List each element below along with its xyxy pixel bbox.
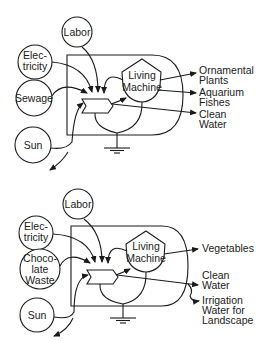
living-machine-label-1: Living [128, 69, 156, 81]
output-3-line-2: Water [199, 118, 227, 130]
flow-output-2 [158, 90, 196, 93]
flow-output-1 [160, 73, 196, 80]
flow-sun-heat-out [50, 152, 68, 170]
source-electricity-label-2: tricity [23, 60, 48, 72]
flow-output-3 [188, 284, 199, 301]
diagram-top: Labor Elec- tricity Sewage Sun Living Ma… [15, 17, 254, 170]
flow-output-3 [112, 104, 196, 113]
living-machine-label-2: Machine [126, 252, 166, 264]
flow-producer-to-machine [116, 269, 130, 275]
output-3-line-3: Landscape [202, 314, 254, 326]
flow-producer-to-machine [111, 98, 126, 104]
flow-machine-feedback [108, 248, 127, 263]
flow-chocolate-waste [60, 257, 90, 266]
flow-sewage [52, 87, 87, 96]
producer-symbol [82, 99, 113, 113]
heat-sink-icon [104, 148, 130, 153]
source-sun-label: Sun [24, 139, 43, 151]
source-sewage-label: Sewage [15, 92, 53, 104]
flow-output-1 [164, 249, 198, 254]
flow-producer-heat [95, 113, 117, 133]
output-1-line-2: Plants [199, 74, 228, 86]
output-2-line-2: Water [202, 279, 230, 291]
flow-producer-heat [100, 284, 123, 304]
source-sun-label: Sun [28, 309, 47, 321]
energy-systems-diagrams: Labor Elec- tricity Sewage Sun Living Ma… [0, 0, 265, 358]
system-boundary [71, 226, 188, 306]
heat-sink-icon [110, 318, 136, 323]
flow-output-2 [117, 275, 198, 285]
source-electricity-label-2: tricity [24, 231, 49, 243]
system-boundary [67, 55, 183, 135]
diagram-bottom: Labor Elec- tricity Choco- late Waste Su… [19, 189, 254, 336]
producer-symbol [87, 270, 118, 284]
output-1-line-1: Vegetables [202, 242, 254, 254]
living-machine-label-2: Machine [122, 81, 162, 93]
source-labor-label: Labor [64, 26, 91, 38]
flow-electricity [53, 234, 95, 262]
flow-machine-feedback [104, 77, 123, 93]
flow-sun-heat-out [54, 318, 73, 336]
output-2-line-2: Fishes [199, 96, 230, 108]
source-input-label-3: Waste [25, 274, 55, 286]
source-labor-label: Labor [65, 198, 92, 210]
living-machine-label-1: Living [132, 240, 160, 252]
